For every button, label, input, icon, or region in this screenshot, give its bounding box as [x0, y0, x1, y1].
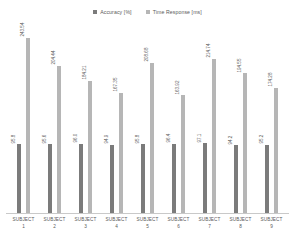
bar-value-label-time: 184.21: [85, 72, 90, 86]
bar-accuracy[interactable]: 96.4: [172, 26, 176, 213]
bar-accuracy[interactable]: 94.2: [234, 26, 238, 213]
x-axis-label-name: SUBJECT: [70, 216, 101, 223]
legend-swatch-accuracy: [93, 10, 97, 14]
bar-value-label-accuracy: 96.0: [76, 139, 81, 148]
x-axis-label-name: SUBJECT: [132, 216, 163, 223]
x-axis-label-index: 6: [163, 223, 194, 230]
x-axis-label-index: 2: [39, 223, 70, 230]
legend-swatch-time-response: [146, 10, 150, 14]
bar-value-label-accuracy: 94.9: [107, 139, 112, 148]
x-axis-label-index: 5: [132, 223, 163, 230]
bar-value-text: 174.28: [269, 73, 274, 87]
bar-time[interactable]: 184.21: [88, 26, 92, 213]
bar-value-label-accuracy: 97.1: [200, 138, 205, 147]
x-axis-line: [6, 213, 289, 214]
bar-value-text: 95.6: [43, 134, 48, 143]
bar-value-text: 184.21: [83, 65, 88, 79]
bar-value-label-time: 194.55: [240, 65, 245, 79]
x-axis-label-name: SUBJECT: [39, 216, 70, 223]
bar-accuracy[interactable]: 95.8: [17, 26, 21, 213]
bar-value-label-time: 174.28: [271, 80, 276, 94]
x-axis-label-index: 3: [70, 223, 101, 230]
x-axis-label-subject-9: SUBJECT9: [256, 216, 287, 230]
bar-time[interactable]: 163.92: [181, 26, 185, 213]
bar-time[interactable]: 194.55: [243, 26, 247, 213]
bar-group: 94.9167.35: [101, 26, 132, 213]
plot-area: 95.8243.5495.6204.4496.0184.2194.9167.35…: [8, 26, 287, 213]
bar-accuracy[interactable]: 95.2: [265, 26, 269, 213]
bar-value-label-time: 204.44: [54, 58, 59, 72]
bar-value-label-accuracy: 94.2: [231, 140, 236, 149]
bar-value-text: 243.54: [21, 23, 26, 37]
bar-value-text: 214.74: [207, 44, 212, 58]
x-axis-label-index: 4: [101, 223, 132, 230]
bar-rect-accuracy[interactable]: [110, 145, 114, 213]
x-axis-label-subject-5: SUBJECT5: [132, 216, 163, 230]
bar-value-text: 94.2: [229, 135, 234, 144]
bar-value-text: 204.44: [52, 51, 57, 65]
bar-group: 96.0184.21: [70, 26, 101, 213]
x-axis-label-subject-8: SUBJECT8: [225, 216, 256, 230]
bar-group: 94.2194.55: [225, 26, 256, 213]
bar-rect-time[interactable]: [212, 59, 216, 213]
bar-value-text: 96.0: [74, 134, 79, 143]
legend-item-time-response[interactable]: Time Response [ms]: [146, 9, 202, 15]
bar-value-text: 194.55: [238, 58, 243, 72]
bar-rect-time[interactable]: [119, 93, 123, 213]
legend-label-accuracy: Accuracy [%]: [100, 9, 131, 15]
bar-rect-accuracy[interactable]: [172, 144, 176, 213]
bar-time[interactable]: 204.44: [57, 26, 61, 213]
bar-group: 95.2174.28: [256, 26, 287, 213]
bar-accuracy[interactable]: 94.9: [110, 26, 114, 213]
x-axis-label-subject-2: SUBJECT2: [39, 216, 70, 230]
x-axis-label-subject-3: SUBJECT3: [70, 216, 101, 230]
x-axis-label-subject-6: SUBJECT6: [163, 216, 194, 230]
bar-time[interactable]: 214.74: [212, 26, 216, 213]
bar-group: 95.8208.68: [132, 26, 163, 213]
bar-group: 97.1214.74: [194, 26, 225, 213]
x-axis-label-name: SUBJECT: [163, 216, 194, 223]
bar-accuracy[interactable]: 96.0: [79, 26, 83, 213]
bar-rect-time[interactable]: [88, 81, 92, 214]
bar-rect-accuracy[interactable]: [48, 144, 52, 213]
x-axis-label-subject-1: SUBJECT1: [8, 216, 39, 230]
bar-rect-accuracy[interactable]: [203, 143, 207, 213]
bar-rect-time[interactable]: [243, 73, 247, 213]
bar-time[interactable]: 243.54: [26, 26, 30, 213]
x-axis-label-index: 1: [8, 223, 39, 230]
bar-value-label-time: 163.92: [178, 87, 183, 101]
bar-rect-accuracy[interactable]: [17, 144, 21, 213]
bar-value-text: 95.8: [136, 134, 141, 143]
bar-value-text: 94.9: [105, 135, 110, 144]
bar-value-text: 167.35: [114, 78, 119, 92]
bar-rect-time[interactable]: [26, 38, 30, 213]
bar-value-text: 95.8: [12, 134, 17, 143]
bar-value-text: 97.1: [198, 133, 203, 142]
bar-rect-time[interactable]: [181, 95, 185, 213]
bar-rect-accuracy[interactable]: [141, 144, 145, 213]
x-axis-label-subject-4: SUBJECT4: [101, 216, 132, 230]
bar-value-label-time: 214.74: [209, 51, 214, 65]
bar-rect-accuracy[interactable]: [79, 144, 83, 213]
x-axis-label-index: 8: [225, 223, 256, 230]
bar-time[interactable]: 208.68: [150, 26, 154, 213]
x-axis-label-name: SUBJECT: [194, 216, 225, 223]
x-axis-label-name: SUBJECT: [225, 216, 256, 223]
x-axis-label-name: SUBJECT: [101, 216, 132, 223]
bar-value-label-time: 208.68: [147, 55, 152, 69]
bar-rect-time[interactable]: [150, 63, 154, 213]
bar-value-label-time: 167.35: [116, 85, 121, 99]
bar-value-text: 163.92: [176, 80, 181, 94]
x-axis-label-index: 9: [256, 223, 287, 230]
bar-value-label-accuracy: 95.8: [14, 139, 19, 148]
bar-value-text: 95.2: [260, 135, 265, 144]
legend-item-accuracy[interactable]: Accuracy [%]: [93, 9, 131, 15]
bar-value-label-accuracy: 95.8: [138, 139, 143, 148]
bar-rect-time[interactable]: [57, 66, 61, 213]
bar-rect-accuracy[interactable]: [234, 145, 238, 213]
bar-time[interactable]: 174.28: [274, 26, 278, 213]
x-axis-label-name: SUBJECT: [256, 216, 287, 223]
bar-time[interactable]: 167.35: [119, 26, 123, 213]
bar-rect-time[interactable]: [274, 88, 278, 213]
bar-rect-accuracy[interactable]: [265, 145, 269, 214]
